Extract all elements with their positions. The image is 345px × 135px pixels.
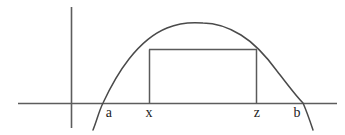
axis-label-a: a xyxy=(106,106,112,120)
parabola-figure: a x z b xyxy=(0,0,345,135)
axis-label-z: z xyxy=(254,106,260,120)
parabola-curve xyxy=(93,23,313,130)
axis-label-x: x xyxy=(145,106,152,120)
axis-label-b: b xyxy=(293,106,300,120)
